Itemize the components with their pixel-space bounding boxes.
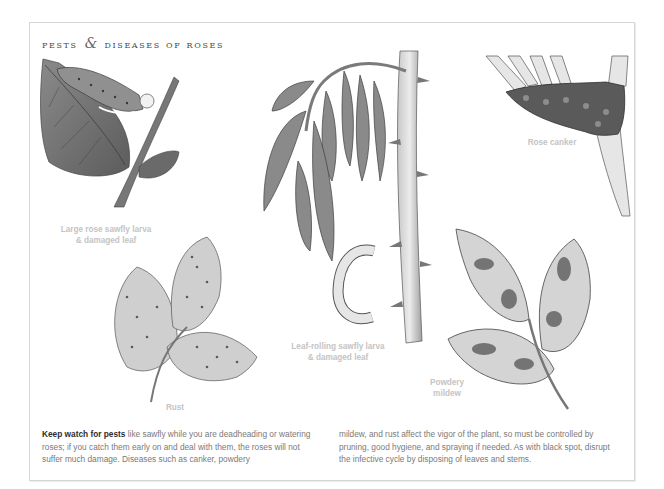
- caption-line: & damaged leaf: [268, 352, 408, 363]
- title-ampersand: &: [85, 35, 97, 51]
- caption-rose-canker: Rose canker: [517, 137, 587, 148]
- caption-line: mildew: [412, 388, 482, 399]
- rose-canker-illustration: [486, 56, 636, 216]
- title-part-pests: pests: [42, 37, 78, 51]
- page-title: pests & diseases of roses: [42, 35, 224, 51]
- body-text: mildew, and rust affect the vigor of the…: [339, 429, 610, 464]
- caption-line: Powdery: [412, 377, 482, 388]
- caption-line: Leaf-rolling sawfly larva: [268, 341, 408, 352]
- body-lead-bold: Keep watch for pests: [42, 429, 125, 439]
- rust-illustration: [107, 237, 267, 407]
- caption-rust: Rust: [150, 402, 200, 413]
- title-part-diseases: diseases of roses: [105, 37, 224, 51]
- body-text-column-1: Keep watch for pests like sawfly while y…: [42, 428, 322, 466]
- leaf-rolling-sawfly-illustration: [254, 51, 444, 351]
- caption-line: Rose canker: [517, 137, 587, 148]
- large-rose-sawfly-illustration: [39, 57, 189, 207]
- body-text-column-2: mildew, and rust affect the vigor of the…: [339, 428, 623, 466]
- caption-powdery-mildew: Powdery mildew: [412, 377, 482, 399]
- caption-line: Rust: [150, 402, 200, 413]
- caption-line: Large rose sawfly larva: [36, 224, 176, 235]
- page-frame: pests & diseases of roses Large rose saw…: [29, 22, 635, 481]
- caption-leaf-rolling-sawfly: Leaf-rolling sawfly larva & damaged leaf: [268, 341, 408, 363]
